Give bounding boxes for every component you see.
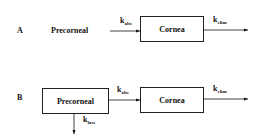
panel-b-kloss-label: kloss (83, 116, 95, 125)
panel-b-kabs-label: kabs (117, 86, 129, 95)
panel-b-cornea-box: Cornea (140, 87, 204, 113)
panel-b-kelim-label: kelim (213, 85, 227, 94)
panel-b-precorneal-box: Precorneal (42, 88, 109, 114)
pharmacokinetic-model-diagram: A Precorneal Cornea kabs kelim B Precorn… (0, 0, 262, 134)
panel-a-cornea-box: Cornea (140, 16, 204, 42)
panel-a-kelim-label: kelim (213, 16, 227, 25)
panel-a-cornea-label: Cornea (159, 25, 184, 34)
panel-a-precorneal: Precorneal (51, 27, 88, 35)
panel-a-label: A (17, 27, 23, 35)
panel-a-kabs-label: kabs (120, 17, 132, 26)
panel-b-precorneal-label: Precorneal (57, 97, 94, 106)
panel-b-cornea-label: Cornea (159, 96, 184, 105)
panel-b-label: B (17, 94, 22, 102)
